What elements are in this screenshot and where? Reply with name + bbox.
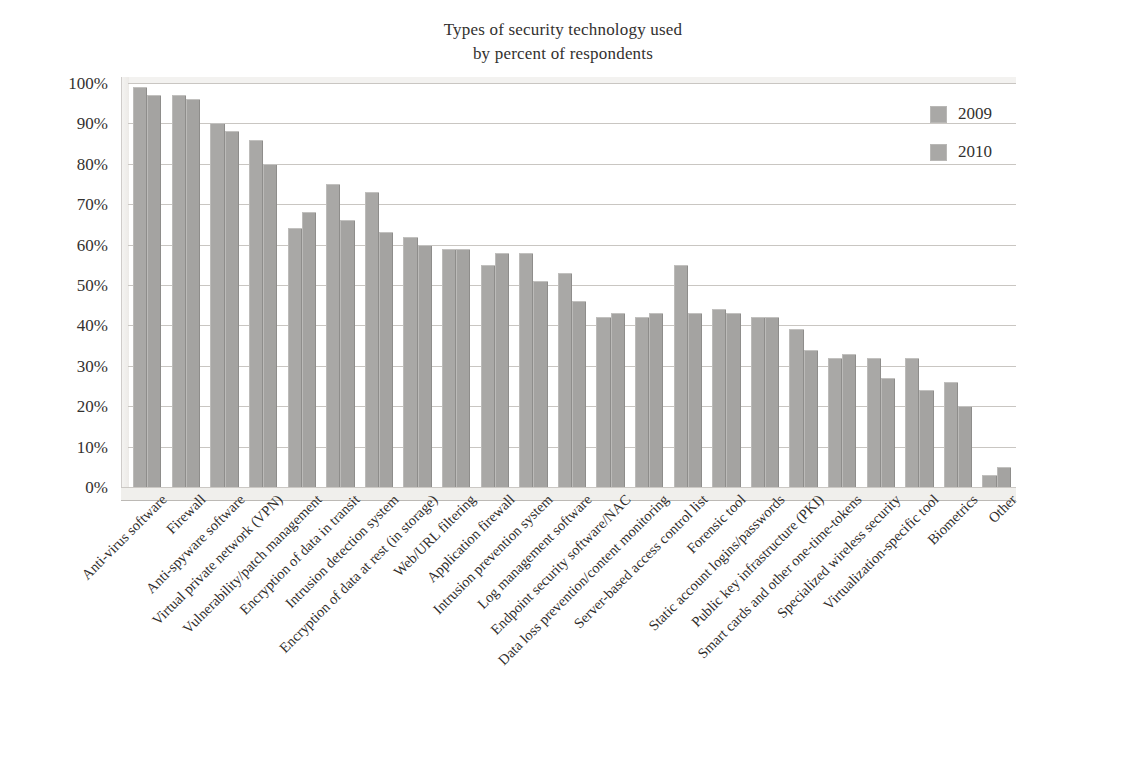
bar-2009-17 bbox=[789, 329, 803, 487]
bar-2010-4 bbox=[302, 212, 316, 487]
y-tick-label: 90% bbox=[38, 115, 108, 132]
bar-2009-11 bbox=[558, 273, 572, 487]
y-tick-label: 30% bbox=[38, 358, 108, 375]
bar-2010-3 bbox=[263, 164, 277, 487]
bar-2010-9 bbox=[495, 253, 509, 487]
title-line-2: by percent of respondents bbox=[0, 42, 1126, 66]
bar-2010-16 bbox=[765, 317, 779, 487]
y-tick-label: 10% bbox=[38, 439, 108, 456]
x-axis-label: Anti-virus software bbox=[79, 492, 170, 583]
bar-2009-16 bbox=[751, 317, 765, 487]
bar-2010-11 bbox=[572, 301, 586, 487]
bar-2009-8 bbox=[442, 249, 456, 487]
bar-2010-5 bbox=[340, 220, 354, 487]
gridline bbox=[128, 83, 1016, 84]
bar-2010-20 bbox=[919, 390, 933, 487]
title-line-1: Types of security technology used bbox=[0, 18, 1126, 42]
bar-2009-0 bbox=[133, 87, 147, 487]
bar-2010-14 bbox=[688, 313, 702, 487]
page-title: Types of security technology used by per… bbox=[0, 18, 1126, 66]
y-tick-label: 80% bbox=[38, 156, 108, 173]
bar-2009-19 bbox=[867, 358, 881, 487]
bar-2009-20 bbox=[905, 358, 919, 487]
bar-2010-12 bbox=[611, 313, 625, 487]
bar-2010-18 bbox=[842, 354, 856, 487]
y-tick-label: 40% bbox=[38, 317, 108, 334]
bar-2009-2 bbox=[210, 123, 224, 487]
y-tick-label: 100% bbox=[38, 75, 108, 92]
gridline bbox=[128, 123, 1016, 124]
y-tick-label: 20% bbox=[38, 398, 108, 415]
y-tick-label: 0% bbox=[38, 479, 108, 496]
bar-2010-10 bbox=[533, 281, 547, 487]
bar-2010-21 bbox=[958, 406, 972, 487]
bar-2010-7 bbox=[418, 245, 432, 487]
bar-2010-17 bbox=[804, 350, 818, 487]
bar-2009-6 bbox=[365, 192, 379, 487]
y-tick-label: 50% bbox=[38, 277, 108, 294]
bar-2009-13 bbox=[635, 317, 649, 487]
y-tick-label: 70% bbox=[38, 196, 108, 213]
bar-2009-7 bbox=[403, 237, 417, 487]
bar-2010-1 bbox=[186, 99, 200, 487]
bar-2010-0 bbox=[147, 95, 161, 487]
y-tick-label: 60% bbox=[38, 237, 108, 254]
bar-2009-22 bbox=[982, 475, 996, 487]
bar-2009-9 bbox=[481, 265, 495, 487]
bar-2010-2 bbox=[225, 131, 239, 487]
bar-2010-15 bbox=[726, 313, 740, 487]
bar-2009-3 bbox=[249, 140, 263, 487]
bar-2010-6 bbox=[379, 232, 393, 487]
bar-2009-18 bbox=[828, 358, 842, 487]
bar-2009-15 bbox=[712, 309, 726, 487]
bar-2009-14 bbox=[674, 265, 688, 487]
bar-2010-13 bbox=[649, 313, 663, 487]
bar-2009-10 bbox=[519, 253, 533, 487]
chart-back-wall-left bbox=[121, 77, 129, 487]
bar-2010-19 bbox=[881, 378, 895, 487]
bar-2010-8 bbox=[456, 249, 470, 487]
x-axis-labels: Anti-virus softwareFirewallAnti-spyware … bbox=[128, 492, 1028, 762]
bar-2009-12 bbox=[596, 317, 610, 487]
x-axis-label: Other bbox=[985, 492, 1019, 526]
plot-area bbox=[128, 83, 1016, 487]
bar-2009-1 bbox=[172, 95, 186, 487]
bar-2009-4 bbox=[288, 228, 302, 487]
bar-2009-21 bbox=[944, 382, 958, 487]
bar-2010-22 bbox=[997, 467, 1011, 487]
bar-2009-5 bbox=[326, 184, 340, 487]
